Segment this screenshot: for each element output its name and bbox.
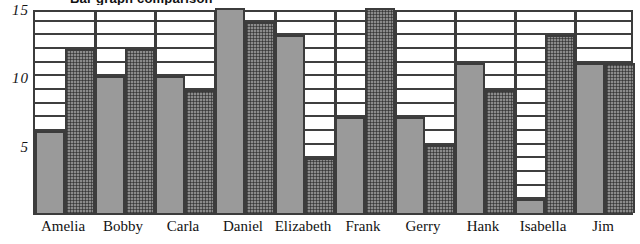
bar-jim-series-1 <box>575 63 605 213</box>
bar-daniel-series-1 <box>215 8 245 213</box>
bar-carla-series-1 <box>155 76 185 213</box>
chart-title: Bar graph comparison <box>70 0 530 5</box>
bar-amelia-series-1 <box>35 131 65 213</box>
x-tick-label-frank: Frank <box>333 218 393 235</box>
bar-isabella-series-1 <box>515 199 545 213</box>
y-tick-label: 10 <box>12 70 29 87</box>
x-tick-label-isabella: Isabella <box>513 218 573 235</box>
y-tick-label: 5 <box>21 138 30 155</box>
x-tick-label-elizabeth: Elizabeth <box>273 218 333 235</box>
y-tick-label: 15 <box>12 2 29 19</box>
bar-gerry-series-2 <box>425 145 455 213</box>
group-separator <box>514 12 517 213</box>
bar-gerry-series-1 <box>395 117 425 213</box>
bar-carla-series-2 <box>185 90 215 213</box>
plot-inner <box>35 12 631 213</box>
x-tick-label-bobby: Bobby <box>93 218 153 235</box>
x-tick-label-daniel: Daniel <box>213 218 273 235</box>
bar-daniel-series-2 <box>245 22 275 213</box>
x-tick-label-amelia: Amelia <box>33 218 93 235</box>
y-axis: 51015 <box>0 0 34 220</box>
bar-amelia-series-2 <box>65 49 95 213</box>
bar-elizabeth-series-2 <box>305 158 335 213</box>
bar-hank-series-2 <box>485 90 515 213</box>
bar-frank-series-2 <box>365 8 395 213</box>
bar-hank-series-1 <box>455 63 485 213</box>
plot-area <box>33 10 633 215</box>
bar-isabella-series-2 <box>545 35 575 213</box>
bar-elizabeth-series-1 <box>275 35 305 213</box>
bar-frank-series-1 <box>335 117 365 213</box>
bar-jim-series-2 <box>605 63 635 213</box>
x-tick-label-gerry: Gerry <box>393 218 453 235</box>
x-tick-label-carla: Carla <box>153 218 213 235</box>
bar-chart-figure: Bar graph comparison 51015 AmeliaBobbyCa… <box>0 0 640 244</box>
x-tick-label-jim: Jim <box>573 218 633 235</box>
bar-bobby-series-2 <box>125 49 155 213</box>
x-tick-label-hank: Hank <box>453 218 513 235</box>
bar-bobby-series-1 <box>95 76 125 213</box>
x-axis: AmeliaBobbyCarlaDanielElizabethFrankGerr… <box>33 216 633 244</box>
